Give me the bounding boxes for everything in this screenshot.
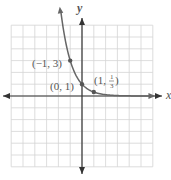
y-axis-label: y	[75, 1, 83, 15]
point-label-suffix: )	[115, 74, 119, 87]
point-label-neg1-3: (−1, 3)	[32, 57, 62, 70]
axes	[3, 7, 162, 174]
x-axis-arrow-right	[155, 93, 162, 99]
point-label-numerator: 1	[110, 73, 114, 81]
point-label-0-1: (0, 1)	[50, 80, 74, 93]
data-point	[92, 90, 96, 94]
chart: x y (−1, 3) (0, 1) (1, 1 3 )	[0, 0, 171, 180]
y-axis-arrow-down	[79, 167, 85, 174]
data-point	[80, 82, 84, 86]
x-axis-label: x	[165, 88, 171, 102]
point-label-prefix: (1,	[94, 74, 106, 87]
point-label-denominator: 3	[110, 82, 114, 90]
x-axis-arrow-left	[3, 93, 10, 99]
y-axis-arrow-up	[79, 18, 85, 25]
point-label-1-third: (1, 1 3 )	[94, 73, 119, 90]
data-point	[68, 58, 72, 62]
